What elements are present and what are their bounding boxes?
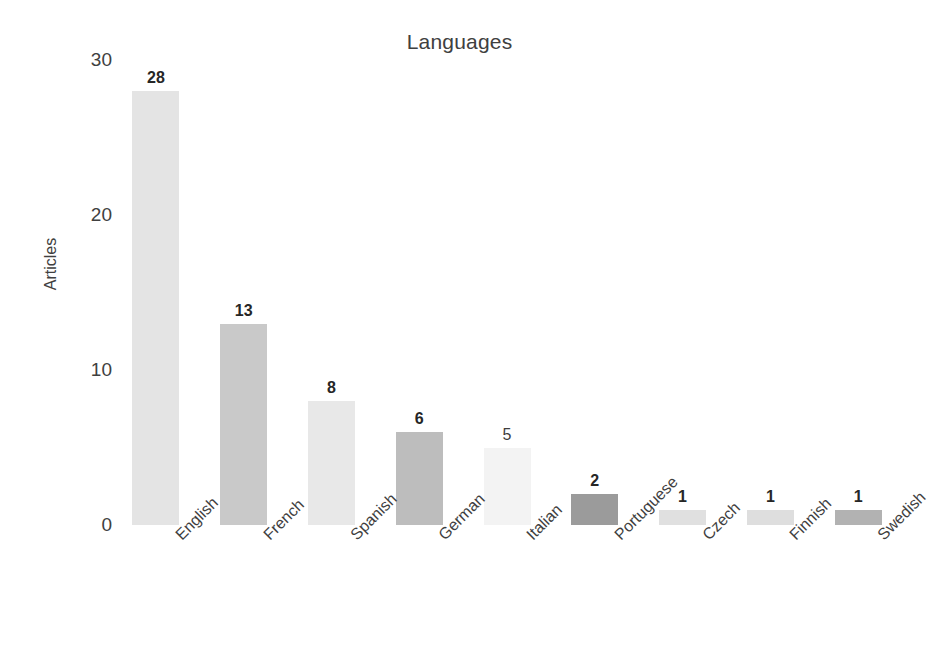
bar-english[interactable] — [132, 91, 179, 525]
bar-group: 1 — [659, 60, 706, 525]
bar-spanish[interactable] — [308, 401, 355, 525]
bar-portuguese[interactable] — [571, 494, 618, 525]
bar-value-label: 1 — [854, 488, 863, 506]
bar-group: 8 — [308, 60, 355, 525]
bar-czech[interactable] — [659, 510, 706, 526]
bar-value-label: 1 — [766, 488, 775, 506]
bar-value-label: 8 — [327, 379, 336, 397]
bar-french[interactable] — [220, 324, 267, 526]
bar-group: 1 — [835, 60, 882, 525]
bar-italian[interactable] — [484, 448, 531, 526]
y-axis-tick-labels: 0102030 — [0, 0, 112, 645]
bar-value-label: 13 — [235, 302, 253, 320]
bar-german[interactable] — [396, 432, 443, 525]
bar-group: 5 — [484, 60, 531, 525]
bar-value-label: 28 — [147, 69, 165, 87]
bar-value-label: 6 — [415, 410, 424, 428]
bar-group: 1 — [747, 60, 794, 525]
bar-swedish[interactable] — [835, 510, 882, 526]
bar-value-label: 2 — [590, 472, 599, 490]
chart-title: Languages — [0, 30, 919, 54]
bar-value-label: 5 — [503, 426, 512, 444]
bar-group: 2 — [571, 60, 618, 525]
y-axis-tick-10: 10 — [52, 359, 112, 381]
x-axis-category-labels: EnglishFrenchSpanishGermanItalianPortugu… — [112, 525, 902, 645]
plot-area: 28138652111 — [112, 60, 902, 525]
bar-finnish[interactable] — [747, 510, 794, 526]
y-axis-tick-0: 0 — [52, 514, 112, 536]
y-axis-tick-30: 30 — [52, 49, 112, 71]
bar-group: 28 — [132, 60, 179, 525]
bar-group: 6 — [396, 60, 443, 525]
bar-group: 13 — [220, 60, 267, 525]
y-axis-tick-20: 20 — [52, 204, 112, 226]
bar-value-label: 1 — [678, 488, 687, 506]
